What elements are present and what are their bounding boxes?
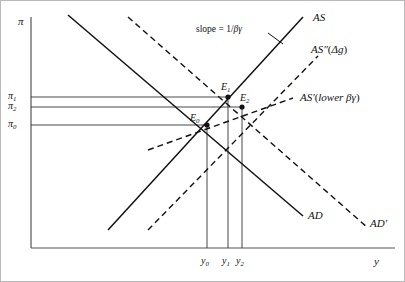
- equilibrium-dot-E2: [239, 104, 244, 109]
- figure-container: π y π1π2π0y0y1y2ASADAS″(Δg)AS′(lower βγ)…: [0, 0, 405, 282]
- x-axis-label: y: [374, 256, 379, 267]
- curve-label-AD-prime: AD′: [370, 218, 387, 229]
- y-axis-label: π: [18, 16, 24, 27]
- curve-label-AD: AD: [308, 210, 323, 221]
- equilibrium-dot-E1: [225, 94, 230, 99]
- equilibrium-dot-E0: [204, 122, 209, 127]
- slope-annotation-text: slope = 1/βγ: [196, 25, 242, 35]
- curve-label-AS-double-prime: AS″(Δg): [311, 44, 347, 55]
- y-tick-label-2: π0: [8, 119, 16, 130]
- curve-label-AS-prime: AS′(lower βγ): [300, 92, 360, 103]
- equilibrium-label-E1: E1: [221, 82, 231, 93]
- x-tick-label-1: y1: [222, 256, 230, 267]
- equilibrium-label-E2: E2: [240, 93, 250, 104]
- equilibrium-label-E0: E0: [190, 113, 200, 124]
- x-tick-label-2: y2: [236, 256, 244, 267]
- y-tick-label-1: π2: [8, 101, 16, 112]
- curve-label-AS: AS: [313, 12, 325, 23]
- x-tick-label-0: y0: [201, 256, 209, 267]
